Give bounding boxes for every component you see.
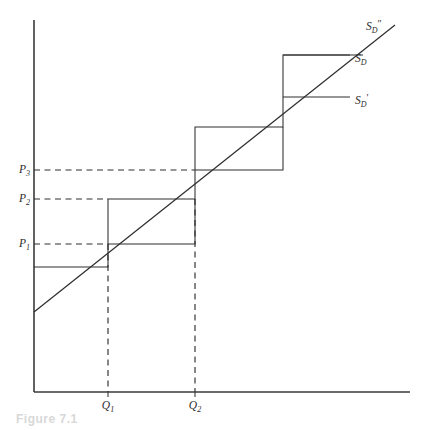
curve-label-sd-double-prime: SD″ xyxy=(366,21,382,33)
curve-label-sd: SD xyxy=(355,53,367,65)
curve-label-sd-subscript: D xyxy=(361,58,367,67)
quantity-label-q1-base: Q xyxy=(102,399,110,411)
curve-label-sd-prime-subscript: D xyxy=(361,100,367,109)
quantity-label-q2-subscript: 2 xyxy=(197,405,201,414)
curve-label-sd-prime: SD′ xyxy=(355,95,369,107)
price-label-p3-base: P xyxy=(19,163,26,175)
price-label-p3: P3 xyxy=(8,164,30,176)
price-label-p2-base: P xyxy=(19,192,26,204)
quantity-label-q1-subscript: 1 xyxy=(110,405,114,414)
figure-container: P3 P2 P1 Q1 Q2 SD″ SD SD′ Figure 7.1 xyxy=(0,0,426,430)
curve-label-sd-double-prime-subscript: D xyxy=(372,26,378,35)
curve-label-sd-prime-mark: ′ xyxy=(367,92,370,103)
price-label-p1-subscript: 1 xyxy=(26,243,30,252)
figure-caption: Figure 7.1 xyxy=(16,412,78,426)
price-label-p2-subscript: 2 xyxy=(26,198,30,207)
supply-step-function xyxy=(34,55,363,267)
quantity-label-q1: Q1 xyxy=(97,400,119,412)
curve-label-sd-double-prime-base: S xyxy=(366,20,372,32)
quantity-label-q2-base: Q xyxy=(189,399,197,411)
price-label-p1: P1 xyxy=(8,238,30,250)
curve-label-sd-double-prime-mark: ″ xyxy=(378,18,383,29)
price-label-p1-base: P xyxy=(19,237,26,249)
quantity-label-q2: Q2 xyxy=(184,400,206,412)
curve-label-sd-prime-base: S xyxy=(355,94,361,106)
step-box-lower-segment-1 xyxy=(108,199,195,244)
price-label-p3-subscript: 3 xyxy=(26,169,30,178)
price-label-p2: P2 xyxy=(8,193,30,205)
curve-label-sd-base: S xyxy=(355,52,361,64)
adjustment-diagonal-line xyxy=(34,25,395,312)
